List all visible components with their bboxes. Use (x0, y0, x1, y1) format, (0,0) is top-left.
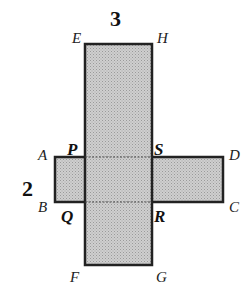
vertex-q: Q (61, 207, 73, 226)
vertex-b: B (38, 199, 47, 215)
vertex-a: A (37, 147, 48, 163)
diagram-canvas: 3 2 E H A B D C F G P S Q R (0, 0, 252, 299)
vertex-d: D (228, 147, 240, 163)
rectangle-efgh (85, 44, 152, 265)
dimension-left: 2 (22, 176, 33, 201)
dimension-top: 3 (110, 6, 121, 31)
vertex-p: P (66, 140, 78, 159)
vertex-g: G (156, 269, 167, 285)
vertex-h: H (156, 30, 169, 46)
net-diagram: 3 2 E H A B D C F G P S Q R (0, 0, 252, 299)
vertex-e: E (71, 30, 81, 46)
vertex-f: F (69, 269, 80, 285)
vertex-c: C (229, 199, 240, 215)
vertex-r: R (153, 207, 165, 226)
vertex-s: S (154, 140, 163, 159)
